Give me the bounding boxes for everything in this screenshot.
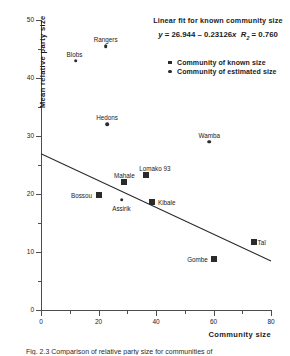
- x-tick-label-0: 0: [29, 318, 53, 325]
- point-label: Wamba: [198, 131, 219, 138]
- point-label: Rangers: [94, 36, 118, 43]
- y-axis-title: Mean relative party size: [38, 0, 47, 108]
- x-tick-minor-70: [242, 311, 243, 314]
- circle-marker-icon: [105, 123, 109, 127]
- x-tick-label-40: 40: [144, 318, 168, 325]
- square-marker-icon: [251, 239, 257, 245]
- circle-marker-icon: [74, 59, 78, 63]
- x-tick-60: [214, 311, 215, 316]
- x-tick-label-60: 60: [202, 318, 226, 325]
- x-axis-title: Community size: [209, 330, 271, 339]
- x-tick-label-80: 80: [259, 318, 283, 325]
- point-label: Assirik: [112, 204, 131, 211]
- data-point: [149, 199, 155, 205]
- y-tick-label-20: 20: [12, 190, 34, 197]
- circle-marker-icon: [120, 198, 124, 202]
- x-tick-0: [41, 311, 42, 316]
- data-point: [211, 256, 217, 262]
- point-label: Blobs: [67, 50, 83, 57]
- x-tick-40: [156, 311, 157, 316]
- point-label: Bossou: [71, 192, 92, 199]
- point-label: Lomako 93: [139, 164, 170, 171]
- figure: Linear fit for known community size y = …: [0, 0, 290, 356]
- x-tick-minor-50: [185, 311, 186, 314]
- y-tick-label-50: 50: [12, 16, 34, 23]
- x-tick-minor-30: [127, 311, 128, 314]
- plot-area: 01020304050 020406080 MahaleLomako 93Bos…: [41, 20, 271, 310]
- square-marker-icon: [143, 172, 149, 178]
- data-point: [207, 140, 211, 144]
- square-marker-icon: [96, 192, 102, 198]
- x-tick-label-20: 20: [87, 318, 111, 325]
- data-point: [251, 239, 257, 245]
- point-label: Taï: [258, 238, 266, 245]
- x-tick-20: [99, 311, 100, 316]
- y-tick-label-10: 10: [12, 248, 34, 255]
- x-tick-80: [271, 311, 272, 316]
- point-label: Mahale: [114, 171, 135, 178]
- data-point: [96, 192, 102, 198]
- circle-marker-icon: [207, 140, 211, 144]
- y-tick-label-0: 0: [12, 306, 34, 313]
- data-point: [74, 59, 78, 63]
- data-point: [105, 123, 109, 127]
- data-point: [121, 179, 127, 185]
- y-tick-label-40: 40: [12, 74, 34, 81]
- x-tick-minor-10: [70, 311, 71, 314]
- figure-caption: Fig. 2.3 Comparison of relative party si…: [26, 348, 276, 355]
- square-marker-icon: [211, 256, 217, 262]
- y-tick-label-30: 30: [12, 132, 34, 139]
- square-marker-icon: [121, 179, 127, 185]
- circle-marker-icon: [104, 44, 108, 48]
- data-point: [143, 172, 149, 178]
- data-point: [120, 198, 124, 202]
- data-point: [104, 44, 108, 48]
- point-label: Kibale: [158, 198, 176, 205]
- square-marker-icon: [149, 199, 155, 205]
- point-label: Hedons: [96, 114, 118, 121]
- point-label: Gombe: [187, 255, 208, 262]
